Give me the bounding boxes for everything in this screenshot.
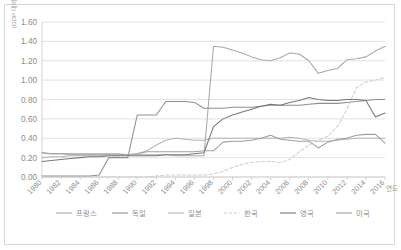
legend-label-5: 미국 [356,209,370,218]
x-tick-label: 1992 [140,178,158,196]
x-tick-label: 2016 [368,178,386,196]
x-tick-label: 1996 [178,178,196,196]
x-tick-label: 2012 [330,178,348,196]
x-tick-label: 1984 [64,178,82,196]
series-line-4 [42,98,385,162]
legend-label-0: 프랑스 [76,209,97,218]
x-tick-label: 1998 [197,178,215,196]
legend-label-1: 독일 [132,209,146,218]
x-tick-label: 1988 [102,178,120,196]
x-tick-label: 2008 [292,178,310,196]
x-tick-label: 2004 [254,178,272,196]
x-tick-label: 2002 [235,178,253,196]
line-chart: 0.000.200.400.600.801.001.201.401.601980… [0,0,401,250]
legend-label-2: 일본 [188,209,202,218]
y-tick-label: 0.20 [21,154,37,163]
y-tick-label: 1.60 [21,18,37,27]
y-tick-label: 1.00 [21,76,37,85]
x-tick-label: 2006 [273,178,291,196]
x-tick-label: 2014 [349,178,367,196]
x-tick-label: 2010 [311,178,329,196]
x-tick-label: 2000 [216,178,234,196]
legend-label-3: 한국 [244,209,258,218]
x-tick-label: 1982 [44,178,62,196]
y-axis-title: (GDP 대비 %) [10,0,18,28]
chart-svg: 0.000.200.400.600.801.001.201.401.601980… [0,0,401,250]
x-axis-title: 연도 [386,185,398,192]
y-tick-label: 1.40 [21,37,37,46]
series-line-5 [42,134,385,154]
x-tick-label: 1994 [159,178,177,196]
y-tick-label: 1.20 [21,57,37,66]
x-tick-label: 1986 [83,178,101,196]
x-tick-label: 1990 [121,178,139,196]
y-tick-label: 0.40 [21,134,37,143]
y-tick-label: 0.80 [21,96,37,105]
legend-label-4: 영국 [300,209,314,218]
y-tick-label: 0.60 [21,115,37,124]
